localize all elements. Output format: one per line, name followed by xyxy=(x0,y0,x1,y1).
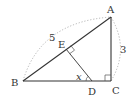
point-label-e: E xyxy=(58,39,65,50)
triangle-diagram: A B C D E 5 3 x xyxy=(0,0,135,102)
point-label-c: C xyxy=(112,85,120,96)
angle-arc-d xyxy=(86,76,88,81)
length-label-ab: 5 xyxy=(49,32,55,43)
point-label-b: B xyxy=(11,77,18,88)
point-label-a: A xyxy=(106,4,115,15)
right-angle-mark-c xyxy=(105,75,111,81)
segment-ab xyxy=(23,17,111,81)
angle-label-x: x xyxy=(76,71,82,82)
length-label-ac: 3 xyxy=(120,44,126,55)
point-label-d: D xyxy=(88,86,96,97)
